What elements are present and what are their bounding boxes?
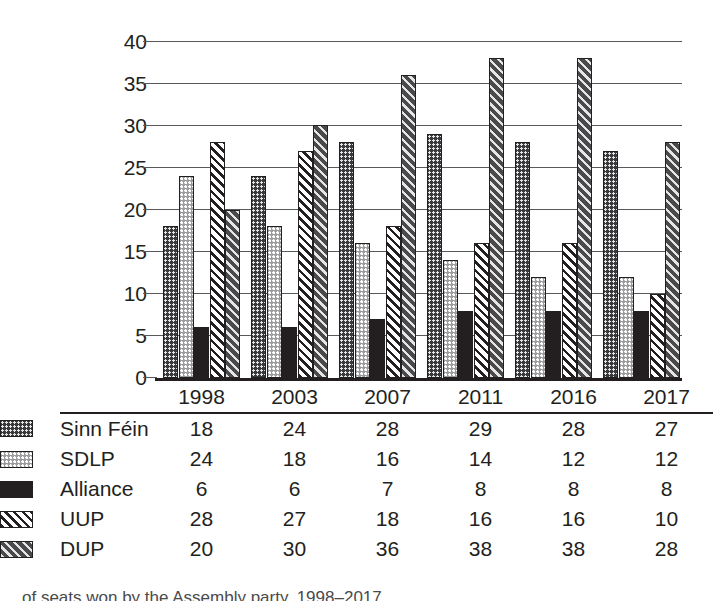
row-label-dup: DUP (60, 534, 155, 564)
bar-sdlp-2016 (531, 277, 546, 378)
header-spacer-label (60, 382, 155, 413)
legend-swatch-cell-uup (0, 504, 60, 534)
bar-uup-2011 (474, 243, 489, 378)
y-tick-label-30: 30 (107, 115, 147, 136)
figure-caption: of seats won by the Assembly party, 1998… (22, 587, 682, 601)
cell-uup-1998: 28 (155, 504, 248, 534)
cell-alliance-2017: 8 (620, 474, 713, 504)
legend-swatch-alliance (0, 481, 33, 498)
table-header-row: 1998 2003 2007 2011 2016 2017 (0, 382, 713, 413)
cell-dup-1998: 20 (155, 534, 248, 564)
cell-dup-2011: 38 (434, 534, 527, 564)
cell-alliance-2003: 6 (248, 474, 341, 504)
bar-dup-1998 (225, 210, 240, 379)
bar-alliance-2016 (546, 311, 561, 378)
cell-dup-2007: 36 (341, 534, 434, 564)
bar-uup-2003 (298, 151, 313, 378)
table-row: SDLP241816141212 (0, 444, 713, 474)
bar-sdlp-1998 (179, 176, 194, 378)
y-tick-label-15: 15 (107, 241, 147, 262)
bar-dup-2011 (489, 58, 504, 378)
cell-sdlp-2011: 14 (434, 444, 527, 474)
bar-uup-2017 (650, 294, 665, 378)
y-tick-label-35: 35 (107, 73, 147, 94)
cell-uup-2017: 10 (620, 504, 713, 534)
cell-uup-2016: 16 (527, 504, 620, 534)
bar-dup-2016 (577, 58, 592, 378)
legend-swatch-sinn-fein (0, 420, 33, 437)
cell-alliance-2016: 8 (527, 474, 620, 504)
cell-dup-2016: 38 (527, 534, 620, 564)
header-spacer-swatch (0, 382, 60, 413)
bar-sdlp-2003 (267, 226, 282, 378)
figure-container: 40 35 30 25 20 15 10 5 0 (0, 0, 713, 601)
y-tick-label-10: 10 (107, 283, 147, 304)
year-header-2011: 2011 (434, 382, 527, 413)
cell-uup-2003: 27 (248, 504, 341, 534)
row-label-alliance: Alliance (60, 474, 155, 504)
bar-chart: 40 35 30 25 20 15 10 5 0 (0, 0, 713, 400)
legend-swatch-cell-sinn-fein (0, 413, 60, 444)
bar-dup-2007 (401, 75, 416, 378)
cell-dup-2003: 30 (248, 534, 341, 564)
legend-swatch-sdlp (0, 451, 33, 468)
bar-sdlp-2011 (443, 260, 458, 378)
bar-alliance-1998 (194, 327, 209, 378)
bar-sinn-fein-2017 (603, 151, 618, 378)
bar-sinn-fein-2007 (339, 142, 354, 378)
y-tick-label-20: 20 (107, 199, 147, 220)
bar-sinn-fein-1998 (163, 226, 178, 378)
cell-sdlp-1998: 24 (155, 444, 248, 474)
cell-sinn-fein-2011: 29 (434, 413, 527, 444)
table-body: Sinn Féin182428292827SDLP241816141212All… (0, 413, 713, 564)
year-header-2003: 2003 (248, 382, 341, 413)
bar-alliance-2007 (370, 319, 385, 378)
cell-sdlp-2016: 12 (527, 444, 620, 474)
bar-alliance-2003 (282, 327, 297, 378)
gridline-30 (155, 125, 682, 126)
year-header-2007: 2007 (341, 382, 434, 413)
legend-swatch-dup (0, 541, 33, 558)
bar-dup-2003 (313, 125, 328, 378)
bar-sdlp-2017 (619, 277, 634, 378)
cell-alliance-2007: 7 (341, 474, 434, 504)
table-row: Alliance667888 (0, 474, 713, 504)
legend-swatch-cell-dup (0, 534, 60, 564)
legend-swatch-uup (0, 511, 33, 528)
cell-sinn-fein-2003: 24 (248, 413, 341, 444)
year-header-2017: 2017 (620, 382, 713, 413)
table-row: DUP203036383828 (0, 534, 713, 564)
y-tick-label-25: 25 (107, 157, 147, 178)
bar-uup-1998 (210, 142, 225, 378)
row-label-uup: UUP (60, 504, 155, 534)
data-table: 1998 2003 2007 2011 2016 2017 Sinn Féin1… (0, 382, 713, 564)
cell-dup-2017: 28 (620, 534, 713, 564)
axis-baseline (155, 378, 682, 381)
table-row: Sinn Féin182428292827 (0, 413, 713, 444)
bar-sinn-fein-2003 (251, 176, 266, 378)
cell-sinn-fein-2007: 28 (341, 413, 434, 444)
cell-sdlp-2003: 18 (248, 444, 341, 474)
legend-swatch-cell-sdlp (0, 444, 60, 474)
bar-alliance-2017 (634, 311, 649, 378)
bar-alliance-2011 (458, 311, 473, 378)
bar-sinn-fein-2016 (515, 142, 530, 378)
row-label-sinn-fein: Sinn Féin (60, 413, 155, 444)
cell-sdlp-2007: 16 (341, 444, 434, 474)
cell-sinn-fein-2017: 27 (620, 413, 713, 444)
bar-sinn-fein-2011 (427, 134, 442, 378)
legend-data-table: 1998 2003 2007 2011 2016 2017 Sinn Féin1… (0, 382, 713, 564)
cell-sinn-fein-1998: 18 (155, 413, 248, 444)
cell-uup-2011: 16 (434, 504, 527, 534)
gridline-40 (155, 41, 682, 42)
bar-uup-2016 (562, 243, 577, 378)
y-tick-label-40: 40 (107, 31, 147, 52)
bar-uup-2007 (386, 226, 401, 378)
cell-uup-2007: 18 (341, 504, 434, 534)
gridline-35 (155, 83, 682, 84)
cell-alliance-1998: 6 (155, 474, 248, 504)
bar-sdlp-2007 (355, 243, 370, 378)
legend-swatch-cell-alliance (0, 474, 60, 504)
bar-dup-2017 (665, 142, 680, 378)
table-row: UUP282718161610 (0, 504, 713, 534)
